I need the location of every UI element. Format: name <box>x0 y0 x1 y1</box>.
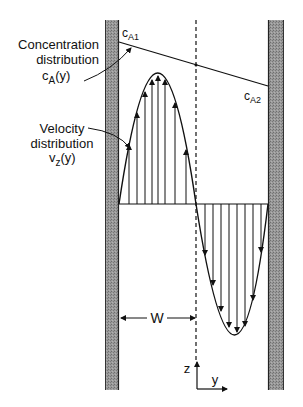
upward-velocity-arrows <box>129 76 186 204</box>
axis-y-label: y <box>212 372 219 387</box>
left-wall <box>105 20 119 390</box>
velocity-profile-negative-lobe <box>196 204 268 335</box>
axis-z-label: z <box>184 361 191 376</box>
cA2-label: cA2 <box>244 89 261 105</box>
concentration-symbol: cA(y) <box>42 68 70 86</box>
mass-transfer-falling-film-diagram: Concentration distribution cA(y) Velocit… <box>0 0 303 407</box>
concentration-profile-line <box>119 42 268 86</box>
half-width-label: W <box>150 310 164 326</box>
velocity-symbol: vz(y) <box>49 150 76 168</box>
concentration-label-line1: Concentration <box>18 37 99 52</box>
right-wall <box>268 20 284 390</box>
downward-velocity-arrows <box>205 204 261 332</box>
cA1-label: cA1 <box>122 26 139 42</box>
velocity-label-line1: Velocity <box>40 121 85 136</box>
concentration-label-line2: distribution <box>36 52 99 67</box>
velocity-label-line2: distribution <box>31 136 94 151</box>
